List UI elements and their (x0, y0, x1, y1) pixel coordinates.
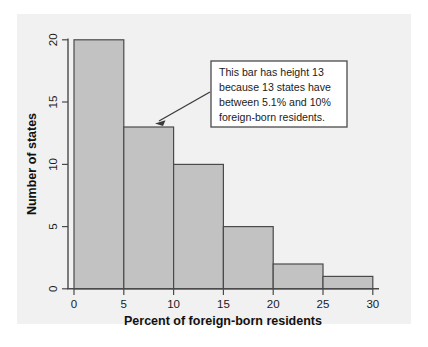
callout-arrow-line (159, 92, 210, 121)
bar-15-20 (223, 227, 273, 289)
callout-line-4: foreign-born residents. (219, 111, 325, 123)
y-tick-label-5: 5 (47, 223, 59, 229)
callout-line-1: This bar has height 13 (219, 66, 324, 78)
y-axis-title: Number of states (25, 113, 39, 215)
bar-0-5 (74, 40, 124, 289)
callout-arrow (155, 92, 210, 126)
bar-5-10 (124, 127, 174, 289)
x-tick-label-25: 25 (317, 298, 330, 310)
y-tick-label-15: 15 (47, 96, 59, 109)
callout-box: This bar has height 13 because 13 states… (211, 61, 347, 127)
histogram-chart: 20 15 10 5 0 0 5 10 15 20 25 30 Percent … (0, 0, 428, 347)
y-tick-label-0: 0 (47, 286, 59, 292)
x-tick-labels-group: 0 5 10 15 20 25 30 (71, 298, 379, 310)
x-axis-title: Percent of foreign-born residents (124, 314, 322, 328)
callout-line-3: between 5.1% and 10% (219, 96, 331, 108)
x-ticks-group (74, 289, 373, 295)
callout-arrow-head (155, 120, 166, 126)
x-tick-label-15: 15 (217, 298, 230, 310)
x-tick-label-30: 30 (366, 298, 379, 310)
y-ticks-group (62, 40, 68, 289)
callout-line-2: because 13 states have (219, 81, 331, 93)
x-tick-label-0: 0 (71, 298, 77, 310)
bar-20-25 (273, 264, 323, 289)
histogram-figure: 20 15 10 5 0 0 5 10 15 20 25 30 Percent … (0, 0, 428, 347)
y-tick-label-20: 20 (47, 33, 59, 46)
x-tick-label-20: 20 (267, 298, 280, 310)
x-tick-label-5: 5 (121, 298, 127, 310)
y-tick-label-10: 10 (47, 158, 59, 171)
bar-10-15 (174, 164, 224, 288)
y-tick-labels-group: 20 15 10 5 0 (47, 33, 59, 292)
bar-25-30 (323, 276, 373, 288)
x-tick-label-10: 10 (167, 298, 180, 310)
